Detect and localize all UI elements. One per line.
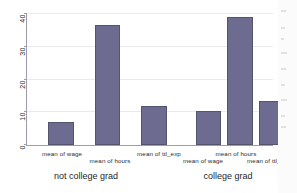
chart-window: 40 30 20 10 0 [0, 0, 279, 193]
xlabel-notcollege-hours: mean of hours [90, 157, 131, 164]
group-label-college-grad: college grad [203, 171, 252, 181]
bar-notcollege-wage [48, 122, 74, 145]
xlabel-college-hours: mean of hours [216, 150, 257, 157]
clipped-window-edge [278, 0, 297, 193]
xlabel-college-wage: mean of wage [183, 157, 223, 164]
ytick-label-0: 0 [19, 146, 26, 150]
gridline-40 [27, 13, 273, 14]
ytick-label-10: 10 [19, 113, 26, 121]
bar-notcollege-ttlexp [141, 106, 167, 145]
plot-area: 40 30 20 10 0 [27, 14, 273, 145]
xlabel-notcollege-wage: mean of wage [42, 150, 82, 157]
ytick-mark-20 [24, 79, 27, 80]
ytick-label-20: 20 [19, 80, 26, 88]
screenshot-root: 40 30 20 10 0 [0, 0, 297, 193]
group-label-not-college-grad: not college grad [54, 171, 118, 181]
plot-frame: 40 30 20 10 0 [26, 14, 273, 146]
ytick-label-30: 30 [19, 47, 26, 55]
bar-college-hours [227, 17, 253, 145]
ytick-label-40: 40 [19, 15, 26, 23]
bar-college-wage [196, 111, 222, 145]
xlabel-notcollege-ttlexp: mean of ttl_exp [137, 150, 181, 157]
bar-notcollege-hours [95, 25, 121, 145]
